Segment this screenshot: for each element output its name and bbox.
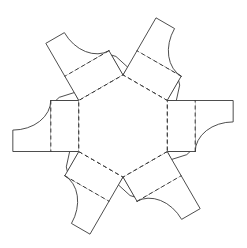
side-panel-bottom [167, 101, 195, 152]
papercraft-net-diagram [0, 0, 247, 248]
side-panel-top [51, 101, 79, 152]
